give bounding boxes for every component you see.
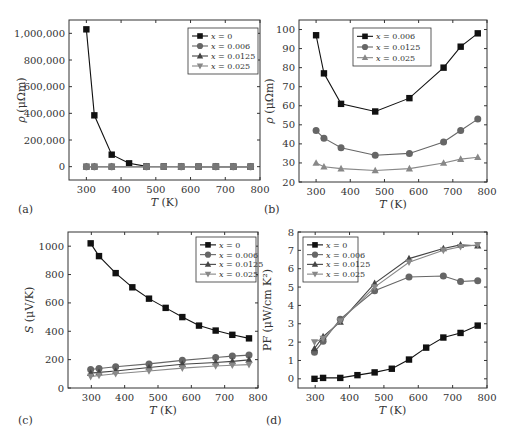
legend-entry: x = 0.006 xyxy=(376,32,415,41)
x-tick-label: 400 xyxy=(115,392,134,403)
square-marker xyxy=(83,163,89,169)
x-tick-label: 300 xyxy=(307,186,326,197)
square-marker xyxy=(109,163,115,169)
x-tick-label: 600 xyxy=(409,186,428,197)
y-tick-label: 20 xyxy=(282,177,295,188)
triangle-up-marker xyxy=(312,159,319,166)
circle-marker xyxy=(362,44,368,50)
square-marker xyxy=(389,366,395,372)
square-marker xyxy=(126,160,132,166)
x-axis-label: T (K) xyxy=(379,198,407,211)
square-marker xyxy=(457,330,463,336)
y-tick-label: 800,000 xyxy=(24,55,65,66)
y-axis-label: ρ (μΩm) xyxy=(263,78,276,124)
circle-marker xyxy=(457,278,464,285)
legend-entry: x = 0.006 xyxy=(219,251,258,260)
square-marker xyxy=(205,242,211,248)
chart-panel-b: 3004005006007008002030405060708090100T (… xyxy=(263,20,497,216)
square-marker xyxy=(96,253,102,259)
circle-marker xyxy=(406,150,413,157)
square-marker xyxy=(247,163,253,169)
y-tick-label: 8 xyxy=(288,227,294,238)
legend-entry: x = 0.025 xyxy=(211,62,250,71)
y-tick-label: 7 xyxy=(288,245,294,256)
y-axis-label: PF (μW/cm K²) xyxy=(261,269,274,351)
square-marker xyxy=(246,335,252,341)
x-tick-label: 700 xyxy=(216,184,235,195)
y-tick-label: 90 xyxy=(282,43,295,54)
x-tick-label: 400 xyxy=(341,186,360,197)
square-marker xyxy=(362,34,368,40)
legend: x = 0.006x = 0.0125x = 0.025 xyxy=(353,28,431,66)
y-tick-label: 4 xyxy=(288,300,294,311)
circle-marker xyxy=(440,138,447,145)
y-tick-label: 50 xyxy=(282,119,295,130)
legend: x = 0x = 0.006x = 0.0125x = 0.025 xyxy=(196,237,263,282)
y-tick-label: 400,000 xyxy=(24,108,65,119)
y-tick-label: 100 xyxy=(276,24,295,35)
y-tick-label: 70 xyxy=(282,81,295,92)
legend-entry: x = 0.025 xyxy=(326,270,365,279)
panel-label: (d) xyxy=(266,414,282,427)
square-marker xyxy=(338,101,344,107)
x-tick-label: 700 xyxy=(443,392,462,403)
x-tick-label: 700 xyxy=(443,186,462,197)
square-marker xyxy=(475,322,481,328)
square-marker xyxy=(372,108,378,114)
y-tick-label: 0 xyxy=(59,161,65,172)
y-tick-label: 1,000,000 xyxy=(14,28,65,39)
legend-entry: x = 0 xyxy=(211,32,232,41)
legend-entry: x = 0.025 xyxy=(219,270,258,279)
x-axis-label: T (K) xyxy=(379,404,407,417)
y-tick-label: 2 xyxy=(288,337,294,348)
square-marker xyxy=(212,327,218,333)
square-marker xyxy=(312,242,318,248)
square-marker xyxy=(423,344,429,350)
circle-marker xyxy=(372,152,379,159)
square-marker xyxy=(311,376,317,382)
x-tick-label: 400 xyxy=(112,184,131,195)
legend-entry: x = 0 xyxy=(326,241,347,250)
square-marker xyxy=(196,322,202,328)
square-marker xyxy=(371,369,377,375)
y-tick-label: 1000 xyxy=(39,241,64,252)
y-tick-label: 6 xyxy=(288,263,294,274)
square-marker xyxy=(179,314,185,320)
triangle-down-marker xyxy=(405,259,412,266)
triangle-up-marker xyxy=(474,153,481,160)
square-marker xyxy=(178,163,184,169)
x-tick-label: 600 xyxy=(181,184,200,195)
figure: 3004005006007008000200,000400,000600,000… xyxy=(0,0,511,445)
y-tick-label: 60 xyxy=(282,100,295,111)
legend-entry: x = 0.0125 xyxy=(326,260,370,269)
circle-marker xyxy=(405,273,412,280)
legend-entry: x = 0.006 xyxy=(211,42,250,51)
y-tick-label: 800 xyxy=(45,269,64,280)
square-marker xyxy=(146,295,152,301)
circle-marker xyxy=(474,277,481,284)
circle-marker xyxy=(474,116,481,123)
x-axis-label: T (K) xyxy=(149,404,177,417)
square-marker xyxy=(129,284,135,290)
square-marker xyxy=(109,151,115,157)
y-axis-label: S (μV/K) xyxy=(23,287,36,334)
y-tick-label: 3 xyxy=(288,318,294,329)
square-marker xyxy=(440,64,446,70)
x-tick-label: 800 xyxy=(477,392,496,403)
x-tick-label: 700 xyxy=(215,392,234,403)
square-marker xyxy=(230,163,236,169)
square-marker xyxy=(406,95,412,101)
square-marker xyxy=(313,32,319,38)
y-tick-label: 30 xyxy=(282,157,295,168)
square-marker xyxy=(87,240,93,246)
square-marker xyxy=(112,270,118,276)
y-tick-label: 80 xyxy=(282,62,295,73)
square-marker xyxy=(162,305,168,311)
x-tick-label: 800 xyxy=(477,186,496,197)
triangle-up-marker xyxy=(320,163,327,170)
x-tick-label: 800 xyxy=(248,392,267,403)
y-tick-label: 5 xyxy=(288,282,294,293)
y-tick-label: 1 xyxy=(288,355,294,366)
legend-entry: x = 0.0125 xyxy=(219,260,263,269)
circle-marker xyxy=(197,43,203,49)
